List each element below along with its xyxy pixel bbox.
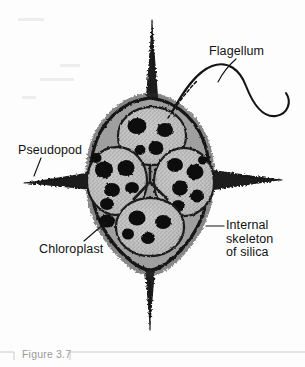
leader-flagellum <box>218 59 236 82</box>
leader-pseudopod <box>34 158 41 176</box>
label-chloroplast: Chloroplast <box>39 243 103 257</box>
label-internal-skeleton-of-silica: Internal skeleton of silica <box>226 219 273 260</box>
lobe-bottom <box>116 198 184 256</box>
label-flagellum: Flagellum <box>209 45 264 59</box>
figure-caption: Figure 3.7 <box>22 348 71 360</box>
scan-artifacts <box>18 18 80 99</box>
figure-page: Flagellum Pseudopod Chloroplast Internal… <box>0 0 305 367</box>
label-pseudopod: Pseudopod <box>18 144 82 158</box>
